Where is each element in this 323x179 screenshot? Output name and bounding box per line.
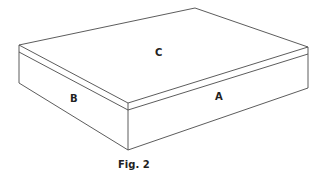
top-face-c [19, 8, 308, 103]
face-label-b: B [70, 93, 78, 104]
face-label-a: A [215, 91, 223, 102]
face-label-c: C [155, 47, 162, 58]
slab-diagram [0, 0, 323, 179]
figure-caption: Fig. 2 [118, 159, 150, 170]
